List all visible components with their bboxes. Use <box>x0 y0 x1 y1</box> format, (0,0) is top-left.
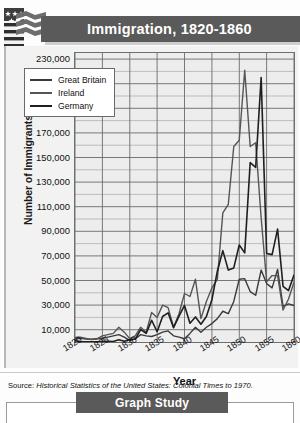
graph-study-title: Graph Study <box>115 396 189 410</box>
y-tick-label: 10,000 <box>20 323 70 334</box>
y-tick-label: 230,000 <box>20 53 70 64</box>
source-note: Source: Historical Statistics of the Uni… <box>8 381 296 390</box>
x-tick-label: 1820 <box>61 334 84 353</box>
page-title-banner: Immigration, 1820-1860 <box>41 16 300 42</box>
legend-swatch-germany <box>30 105 52 107</box>
page-title: Immigration, 1820-1860 <box>41 21 252 37</box>
footer-divider <box>0 372 300 373</box>
legend-label-ireland: Ireland <box>58 88 84 98</box>
source-text: Historical Statistics of the United Stat… <box>36 381 252 390</box>
legend-item: Germany <box>30 99 106 112</box>
legend-label-great-britain: Great Britain <box>58 75 106 85</box>
y-tick-label: 170,000 <box>20 126 70 137</box>
chart-container: Number of Immigrants 230,000210,000190,0… <box>4 46 298 368</box>
y-tick-label: 130,000 <box>20 176 70 187</box>
page-root: Immigration, 1820-1860 Number of Immigra… <box>0 0 300 423</box>
y-tick-label: 150,000 <box>20 151 70 162</box>
y-tick-label: 30,000 <box>20 299 70 310</box>
graph-study-banner: Graph Study <box>76 392 228 413</box>
legend-label-germany: Germany <box>58 101 93 111</box>
chart-legend: Great Britain Ireland Germany <box>24 68 115 117</box>
y-tick-label: 110,000 <box>20 200 70 211</box>
legend-item: Great Britain <box>30 73 106 86</box>
banner-shadow <box>45 42 300 45</box>
source-prefix: Source: <box>8 381 34 390</box>
x-axis-tick-labels: 182018251830183518401845185018551860 <box>74 343 299 379</box>
y-tick-label: 70,000 <box>20 249 70 260</box>
legend-swatch-great-britain <box>30 79 52 81</box>
y-tick-label: 50,000 <box>20 274 70 285</box>
legend-swatch-ireland <box>30 92 52 94</box>
y-tick-label: 90,000 <box>20 225 70 236</box>
legend-item: Ireland <box>30 86 106 99</box>
